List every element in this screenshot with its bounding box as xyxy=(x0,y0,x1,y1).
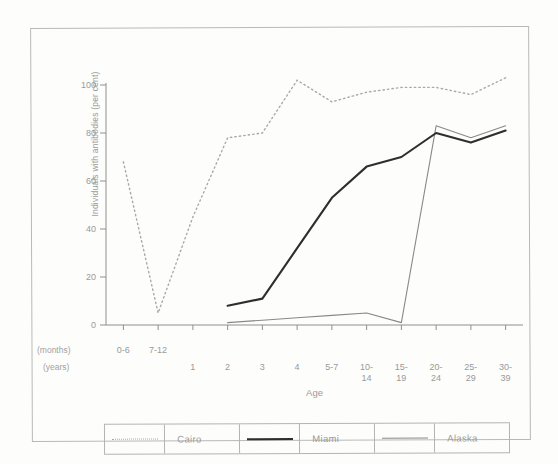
legend-swatch-miami xyxy=(240,424,300,453)
svg-text:5-7: 5-7 xyxy=(325,362,338,372)
legend-label-cairo: Cairo xyxy=(165,424,240,453)
dotted-line-icon xyxy=(112,439,158,440)
thin-line-icon xyxy=(382,438,428,439)
legend-swatch-alaska xyxy=(375,424,435,453)
svg-text:0: 0 xyxy=(91,320,96,330)
y-axis-title: Individuals with antibodies (per cent) xyxy=(90,44,100,244)
legend-text-alaska: Alaska xyxy=(447,432,477,443)
svg-text:3: 3 xyxy=(260,362,265,372)
thick-line-icon xyxy=(247,438,293,440)
svg-text:29: 29 xyxy=(466,373,476,383)
x-axis-tick-labels: 0-67-1212345-710-1415-1920-2425-2930-39 xyxy=(117,345,512,383)
svg-text:0-6: 0-6 xyxy=(117,345,130,355)
svg-text:24: 24 xyxy=(431,373,441,383)
series-line-cairo xyxy=(123,78,505,313)
svg-text:2: 2 xyxy=(225,362,230,372)
chart-page: Individuals with antibodies (per cent) 0… xyxy=(0,0,558,464)
svg-text:25-: 25- xyxy=(464,362,477,372)
x-axis-ticks xyxy=(123,325,505,330)
svg-text:19: 19 xyxy=(396,373,406,383)
svg-text:20: 20 xyxy=(86,272,96,282)
legend-text-miami: Miami xyxy=(312,433,339,444)
chart-canvas: 020406080100 0-67-1212345-710-1415-1920-… xyxy=(31,27,528,407)
svg-text:7-12: 7-12 xyxy=(149,345,167,355)
svg-text:1: 1 xyxy=(190,362,195,372)
plot-area: Individuals with antibodies (per cent) 0… xyxy=(31,27,528,439)
series-line-miami xyxy=(228,131,506,306)
months-row-label: (months) xyxy=(37,345,71,355)
chart-legend: Cairo Miami Alaska xyxy=(104,422,510,454)
legend-swatch-cairo xyxy=(105,424,165,453)
svg-text:4: 4 xyxy=(295,362,300,372)
years-row-label: (years) xyxy=(43,362,70,372)
svg-text:14: 14 xyxy=(362,373,372,383)
svg-text:39: 39 xyxy=(501,373,511,383)
svg-text:20-: 20- xyxy=(430,362,443,372)
svg-text:15-: 15- xyxy=(395,362,408,372)
svg-text:10-: 10- xyxy=(360,362,373,372)
legend-label-miami: Miami xyxy=(300,424,375,453)
svg-text:30-: 30- xyxy=(499,362,512,372)
legend-text-cairo: Cairo xyxy=(177,433,201,444)
legend-label-alaska: Alaska xyxy=(435,423,509,452)
x-axis-title: Age xyxy=(306,387,323,398)
series-line-alaska xyxy=(228,126,506,323)
